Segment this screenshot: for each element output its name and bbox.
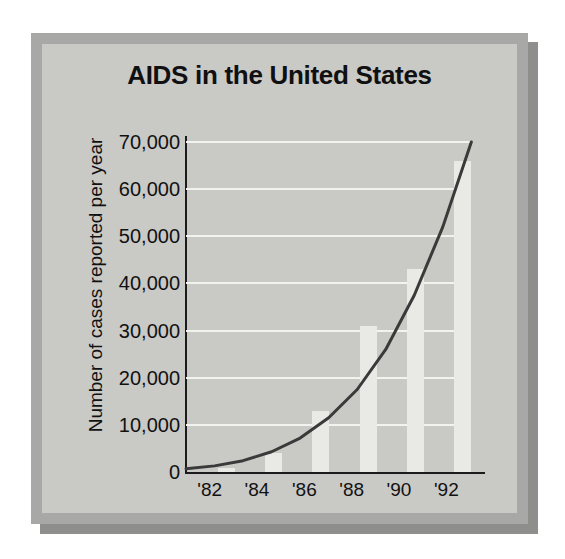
figure-root: AIDS in the United States 010,00020,0003… <box>0 0 565 559</box>
y-tick-label: 0 <box>68 462 180 482</box>
y-axis-tick-labels: 010,00020,00030,00040,00050,00060,00070,… <box>64 44 180 513</box>
figure-frame-border: AIDS in the United States 010,00020,0003… <box>31 33 528 524</box>
x-tick-label: '92 <box>423 480 469 499</box>
x-tick-label: '86 <box>281 480 327 499</box>
x-tick-label: '88 <box>329 480 375 499</box>
trend-curve <box>186 130 470 472</box>
y-axis-title: Number of cases reported per year <box>85 135 107 435</box>
plot-area <box>186 142 470 472</box>
x-axis-line <box>185 472 485 474</box>
x-tick-label: '90 <box>376 480 422 499</box>
chart-panel: AIDS in the United States 010,00020,0003… <box>42 44 517 513</box>
x-tick-label: '84 <box>234 480 280 499</box>
x-tick-label: '82 <box>187 480 233 499</box>
